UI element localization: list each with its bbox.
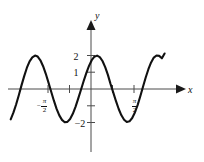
y-tick-label-2: 2 — [74, 51, 79, 62]
x-axis-label: x — [187, 84, 193, 95]
fraction: π 2 — [132, 98, 138, 114]
y-tick-label-neg-2: −2 — [75, 118, 86, 129]
graph-figure: x y 2 1 −2 − π 2 π 2 — [0, 0, 204, 162]
fraction-numerator: π — [42, 98, 48, 105]
fraction: π 2 — [41, 98, 47, 114]
sine-curve — [11, 54, 165, 123]
x-tick-label-neg-pi-over-2: − π 2 — [37, 98, 47, 114]
y-axis-label: y — [94, 10, 100, 21]
fraction-denominator: 2 — [42, 107, 48, 114]
fraction-numerator: π — [132, 98, 138, 105]
minus-sign: − — [37, 103, 41, 110]
x-axis-arrow-icon — [176, 85, 186, 94]
x-tick-label-pi-over-2: π 2 — [131, 98, 138, 114]
fraction-denominator: 2 — [132, 107, 138, 114]
coordinate-plot: x y 2 1 −2 — [0, 0, 204, 162]
y-tick-label-1: 1 — [74, 67, 79, 78]
y-axis-arrow-icon — [87, 20, 96, 30]
